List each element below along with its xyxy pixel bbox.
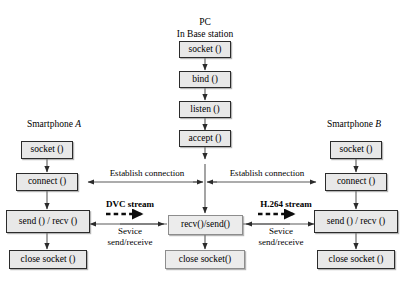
node-pc-recv-send[interactable]: recv()/send() (168, 215, 243, 235)
service-right-line1: Sevice (243, 226, 319, 237)
node-pc-listen[interactable]: listen () (179, 101, 231, 118)
smartphone-b-label: Smartphone B (310, 119, 398, 130)
node-b-connect[interactable]: connect () (325, 173, 387, 191)
node-pc-socket[interactable]: socket () (179, 41, 231, 58)
edge-label-establish-right: Establish connection (212, 168, 322, 179)
node-a-socket[interactable]: socket () (21, 141, 73, 159)
node-a-close-socket[interactable]: close socket () (9, 250, 87, 269)
pc-title-line1: PC (181, 17, 229, 28)
stream-label-h264: H.264 stream (246, 200, 326, 209)
stream-label-dvc: DVC stream (95, 200, 165, 209)
socket-communication-diagram: PC In Base station Smartphone A Smartpho… (0, 0, 402, 287)
node-b-socket[interactable]: socket () (330, 141, 382, 159)
smartphone-a-label-text: Smartphone A (27, 119, 81, 129)
node-pc-accept[interactable]: accept () (179, 130, 231, 147)
edge-label-service-right: Sevice send/receive (243, 226, 319, 247)
node-b-close-socket[interactable]: close socket () (317, 250, 395, 269)
edge-label-service-left: Sevice send/receive (92, 226, 168, 247)
node-pc-close-socket[interactable]: close socket() (165, 250, 245, 269)
service-left-line1: Sevice (92, 226, 168, 237)
pc-title-line2: In Base station (161, 29, 249, 40)
node-a-connect[interactable]: connect () (16, 173, 78, 191)
node-pc-bind[interactable]: bind () (179, 71, 231, 88)
edge-label-establish-left: Establish connection (92, 168, 202, 179)
smartphone-a-label: Smartphone A (11, 119, 97, 130)
smartphone-b-label-text: Smartphone B (327, 119, 381, 129)
service-left-line2: send/receive (92, 237, 168, 248)
service-right-line2: send/receive (243, 237, 319, 248)
node-a-send-recv[interactable]: send () / recv () (6, 210, 90, 233)
node-b-send-recv[interactable]: send () / recv () (314, 210, 398, 233)
